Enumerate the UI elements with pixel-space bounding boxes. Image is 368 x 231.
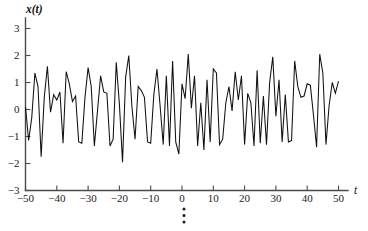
- x-tick-label: 20: [239, 192, 251, 204]
- y-axis-title: x(t): [25, 3, 43, 16]
- x-tick-label: 40: [302, 192, 314, 204]
- x-tick-label: 10: [208, 192, 220, 204]
- y-tick-label: 1: [14, 76, 20, 88]
- x-tick-group: −50−40−30−20−1001020304050: [17, 186, 345, 204]
- continuation-ellipsis-icon: [183, 208, 186, 224]
- x-tick-label: −20: [111, 192, 129, 204]
- y-tick-label: 0: [14, 103, 20, 115]
- y-tick-label: 2: [14, 49, 20, 61]
- figure-container: 3210−1−2−3 −50−40−30−20−1001020304050 x(…: [0, 0, 368, 231]
- x-tick-label: 30: [270, 192, 282, 204]
- y-tick-label: −2: [8, 157, 20, 169]
- signal-plot: 3210−1−2−3 −50−40−30−20−1001020304050 x(…: [0, 0, 368, 231]
- x-tick-label: −50: [17, 192, 35, 204]
- x-tick-label: −10: [142, 192, 160, 204]
- x-tick-label: 0: [179, 192, 185, 204]
- x-axis-title: t: [354, 184, 358, 196]
- x-tick-label: 50: [333, 192, 345, 204]
- x-tick-label: −30: [79, 192, 97, 204]
- y-tick-group: 3210−1−2−3: [8, 22, 31, 196]
- y-tick-label: −1: [8, 130, 20, 142]
- axes-group: [26, 18, 349, 191]
- signal-waveform: [26, 54, 339, 162]
- y-tick-label: 3: [14, 22, 20, 34]
- x-tick-label: −40: [48, 192, 66, 204]
